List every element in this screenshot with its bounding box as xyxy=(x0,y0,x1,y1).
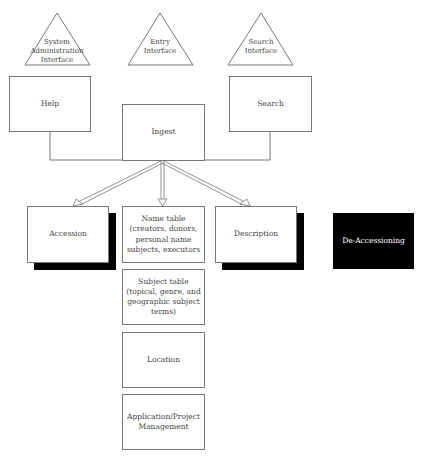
subject-table-box: Subject table (topical, genre, and geogr… xyxy=(122,269,205,325)
name-table-label: Name table (creators, donors, personal n… xyxy=(125,214,202,255)
search-label: Search xyxy=(257,99,284,109)
label-entry-interface: Entry Interface xyxy=(125,38,195,56)
description-box: Description xyxy=(215,206,297,263)
de-accessioning-label: De-Accessioning xyxy=(342,236,405,246)
arrow-to-name-table xyxy=(158,161,167,206)
label-line: Entry xyxy=(125,38,195,47)
application-project-label: Application/Project Management xyxy=(125,412,202,432)
search-box: Search xyxy=(229,76,312,132)
arrow-to-description xyxy=(162,161,250,206)
label-search-interface: Search Interface xyxy=(226,38,296,56)
ingest-label: Ingest xyxy=(152,127,176,137)
application-project-box: Application/Project Management xyxy=(122,394,205,450)
help-box: Help xyxy=(9,76,91,132)
arrow-to-accession xyxy=(73,161,163,206)
name-table-box: Name table (creators, donors, personal n… xyxy=(122,206,205,263)
location-label: Location xyxy=(147,355,180,365)
label-line: Interface xyxy=(226,47,296,56)
subject-table-label: Subject table (topical, genre, and geogr… xyxy=(125,277,202,318)
de-accessioning-box: De-Accessioning xyxy=(333,213,414,269)
ingest-box: Ingest xyxy=(122,104,205,161)
connector-search xyxy=(205,131,270,160)
help-label: Help xyxy=(41,99,59,109)
label-line: Interface xyxy=(125,47,195,56)
label-line: System xyxy=(22,38,92,47)
label-system-admin-interface: System Administration Interface xyxy=(22,38,92,65)
accession-box: Accession xyxy=(27,206,109,263)
description-label: Description xyxy=(234,229,278,239)
location-box: Location xyxy=(122,332,205,388)
accession-label: Accession xyxy=(49,229,87,239)
label-line: Interface xyxy=(22,56,92,65)
label-line: Administration xyxy=(22,47,92,56)
connector-help xyxy=(50,131,122,160)
label-line: Search xyxy=(226,38,296,47)
